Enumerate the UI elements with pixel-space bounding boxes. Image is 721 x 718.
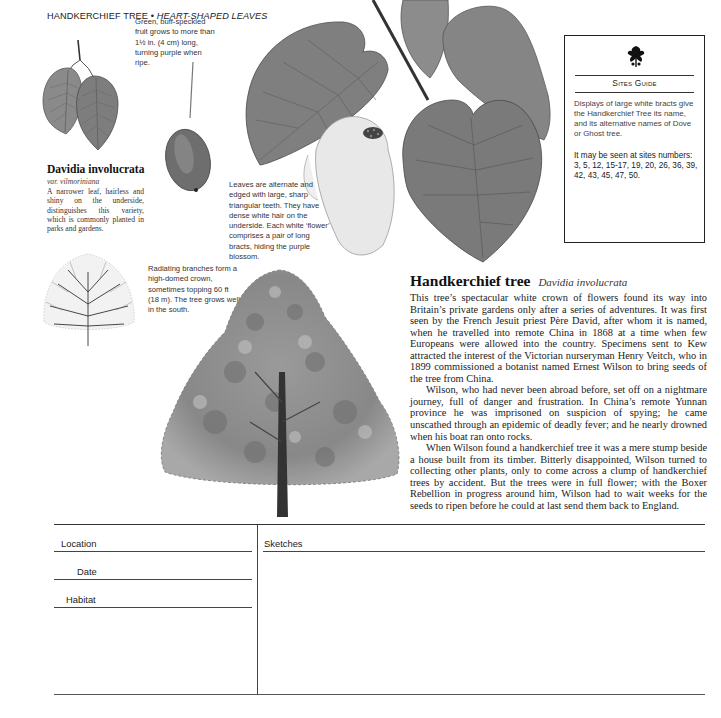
winter-tree-silhouette-illustration (38, 252, 140, 348)
article-body: This tree’s spectacular white crown of f… (410, 292, 707, 511)
fruit-illustration (160, 60, 220, 195)
variety-name: Davidia involucrata (47, 163, 144, 175)
sketches-label: Sketches (264, 538, 303, 549)
habitat-field[interactable] (54, 607, 252, 608)
variety-leaves-illustration (38, 38, 130, 156)
form-top-rule (54, 524, 705, 525)
article-paragraph: This tree’s spectacular white crown of f… (410, 292, 707, 384)
article-common-name: Handkerchief tree (410, 272, 530, 289)
running-head-title: HANDKERCHIEF TREE (47, 11, 148, 21)
sites-guide-box: Sites Guide Displays of large white brac… (564, 35, 705, 243)
date-field[interactable] (54, 579, 252, 580)
sites-guide-title: Sites Guide (565, 78, 704, 88)
date-label: Date (77, 566, 97, 577)
sites-guide-description: Displays of large white bracts give the … (574, 99, 699, 139)
fruit-caption: Green, buff-speckled fruit grows to more… (135, 17, 215, 68)
article-paragraph: Wilson, who had never been abroad before… (410, 384, 707, 442)
variety-description: A narrower leaf, hairless and shiny on t… (47, 187, 144, 233)
form-bottom-rule (54, 694, 705, 695)
habitat-label: Habitat (66, 594, 96, 605)
sites-guide-site-numbers: It may be seen at sites numbers: 3, 5, 1… (574, 151, 699, 182)
oak-leaf-logo-icon (624, 44, 648, 68)
leaves-caption: Leaves are alternate and edged with larg… (229, 180, 331, 262)
article-heading: Handkerchief tree Davidia involucrata (410, 272, 627, 290)
sketches-area[interactable] (263, 553, 705, 691)
sites-title-rule-top (575, 75, 694, 76)
location-label: Location (61, 538, 96, 549)
sites-title-rule-bottom (575, 92, 694, 93)
article-paragraph: When Wilson found a handkerchief tree it… (410, 442, 707, 511)
location-field[interactable] (54, 551, 252, 552)
summer-tree-illustration (155, 262, 405, 522)
article-latin-name: Davidia involucrata (538, 276, 627, 288)
sketches-rule (263, 551, 705, 552)
form-column-divider (257, 525, 258, 694)
variety-subname: var. vilmoriniana (47, 177, 99, 186)
